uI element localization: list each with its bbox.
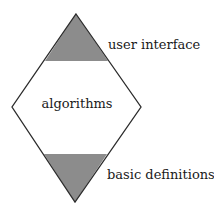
label-user-interface: user interface — [108, 37, 201, 52]
label-basic-definitions: basic definitions — [107, 167, 214, 182]
layered-diamond-diagram: user interface algorithms basic definiti… — [0, 0, 214, 209]
bottom-band-shading — [44, 154, 107, 202]
label-algorithms: algorithms — [41, 96, 112, 111]
top-band-shading — [45, 14, 108, 61]
